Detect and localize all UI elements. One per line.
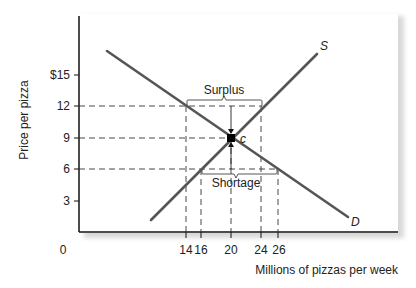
- y-tick-label: 9: [63, 131, 70, 145]
- y-tick-label: 3: [63, 194, 70, 208]
- x-tick-label: 26: [272, 243, 286, 257]
- surplus-label: Surplus: [204, 83, 245, 97]
- y-axis-title: Price per pizza: [17, 80, 31, 160]
- guide-lines: [79, 106, 278, 232]
- equilibrium-label: c: [240, 132, 246, 146]
- x-tick-label: 20: [224, 243, 238, 257]
- y-tick-label: 12: [57, 99, 71, 113]
- x-tick-label: 14: [179, 243, 193, 257]
- surplus-bracket: [187, 96, 262, 106]
- origin-label: 0: [60, 243, 67, 257]
- equilibrium-point: [227, 134, 235, 142]
- shortage-label: Shortage: [212, 176, 261, 190]
- x-tick-label: 16: [194, 243, 208, 257]
- x-axis-title: Millions of pizzas per week: [255, 263, 399, 277]
- y-tick-label: 6: [63, 162, 70, 176]
- y-tick-label: $15: [50, 68, 70, 82]
- supply-label: S: [320, 39, 328, 53]
- demand-label: D: [351, 215, 360, 229]
- supply-demand-chart: $15 12 9 6 3 0 14 16 20 24 26 Millions o…: [0, 0, 416, 288]
- x-ticks: [186, 232, 278, 238]
- x-tick-label: 24: [254, 243, 268, 257]
